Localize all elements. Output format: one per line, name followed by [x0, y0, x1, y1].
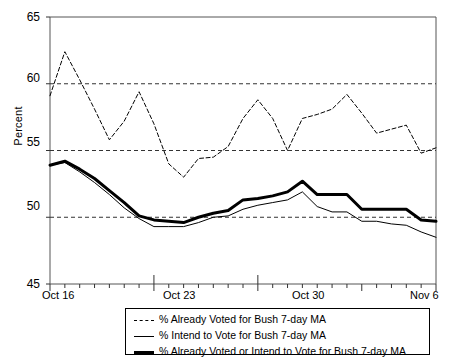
x-axis-ticks	[50, 275, 436, 291]
data-series-group	[50, 52, 436, 238]
legend-label-already-voted: % Already Voted for Bush 7-day MA	[159, 314, 326, 325]
legend-item-already-or-intend: % Already Voted or Intend to Vote for Bu…	[134, 344, 429, 359]
gridlines	[50, 84, 436, 218]
legend-item-already-voted: % Already Voted for Bush 7-day MA	[134, 312, 429, 327]
series-already-or-intend	[50, 161, 436, 222]
chart-legend: % Already Voted for Bush 7-day MA % Inte…	[125, 308, 430, 355]
thin-line-icon	[134, 331, 154, 341]
plot-area	[0, 0, 455, 361]
series-already-voted	[50, 52, 436, 177]
dashed-line-icon	[134, 315, 154, 325]
legend-item-intend-to-vote: % Intend to Vote for Bush 7-day MA	[134, 328, 429, 343]
legend-label-already-or-intend: % Already Voted or Intend to Vote for Bu…	[159, 346, 406, 357]
thick-line-icon	[134, 347, 154, 357]
chart-figure: Percent 65 60 55 50 45 Oct 16 Oct 23 Oct…	[0, 0, 455, 361]
y-axis-ticks	[46, 17, 50, 284]
legend-label-intend-to-vote: % Intend to Vote for Bush 7-day MA	[159, 330, 326, 341]
